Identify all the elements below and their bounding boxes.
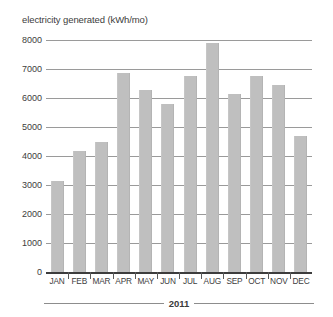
y-tick-label-1000: 1000 [22, 238, 42, 248]
bar-slot-nov [268, 40, 290, 272]
bar-slot-jul [179, 40, 201, 272]
x-tick-label-aug: AUG [201, 276, 223, 290]
x-tick-label-sep: SEP [223, 276, 245, 290]
chart-title: electricity generated (kWh/mo) [22, 14, 148, 25]
y-tick-label-4000: 4000 [22, 151, 42, 161]
x-tick-label-jul: JUL [179, 276, 201, 290]
x-axis-tick-labels: JANFEBMARAPRMAYJUNJULAUGSEPOCTNOVDEC [46, 276, 312, 290]
y-tick-label-2000: 2000 [22, 209, 42, 219]
bar-nov [272, 85, 285, 272]
bar-sep [228, 94, 241, 272]
bar-slot-jun [157, 40, 179, 272]
y-tick-label-3000: 3000 [22, 180, 42, 190]
bar-jan [51, 181, 64, 272]
bar-slot-apr [113, 40, 135, 272]
bar-apr [117, 73, 130, 272]
bar-jun [161, 104, 174, 272]
x-tick-label-dec: DEC [290, 276, 312, 290]
bar-may [139, 90, 152, 272]
bar-jul [184, 76, 197, 272]
bar-slot-feb [68, 40, 90, 272]
bar-oct [250, 76, 263, 272]
bar-slot-aug [201, 40, 223, 272]
bar-chart: electricity generated (kWh/mo) 800070006… [0, 0, 333, 317]
x-axis-group-label: 2011 [44, 296, 314, 310]
x-tick-label-jun: JUN [157, 276, 179, 290]
x-tick-label-nov: NOV [268, 276, 290, 290]
bar-feb [73, 151, 86, 272]
year-rule-left [44, 303, 164, 304]
bar-slot-may [135, 40, 157, 272]
bar-slot-dec [290, 40, 312, 272]
y-tick-label-6000: 6000 [22, 93, 42, 103]
bar-slot-oct [246, 40, 268, 272]
bar-slot-jan [46, 40, 68, 272]
x-tick-label-apr: APR [113, 276, 135, 290]
y-tick-label-0: 0 [37, 267, 42, 277]
year-label: 2011 [169, 298, 190, 309]
bar-slot-sep [223, 40, 245, 272]
y-axis-tick-labels: 800070006000500040003000200010000 [0, 40, 42, 272]
bar-dec [294, 136, 307, 272]
x-tick-label-jan: JAN [46, 276, 68, 290]
y-tick-label-7000: 7000 [22, 64, 42, 74]
bar-slot-mar [90, 40, 112, 272]
year-rule-right [194, 303, 314, 304]
bar-series [46, 40, 312, 272]
y-tick-label-8000: 8000 [22, 35, 42, 45]
x-tick-label-mar: MAR [90, 276, 112, 290]
y-tick-label-5000: 5000 [22, 122, 42, 132]
x-tick-label-oct: OCT [246, 276, 268, 290]
plot-area [46, 40, 312, 272]
bar-mar [95, 142, 108, 272]
bar-aug [206, 43, 219, 272]
x-tick-label-feb: FEB [68, 276, 90, 290]
x-tick-label-may: MAY [135, 276, 157, 290]
